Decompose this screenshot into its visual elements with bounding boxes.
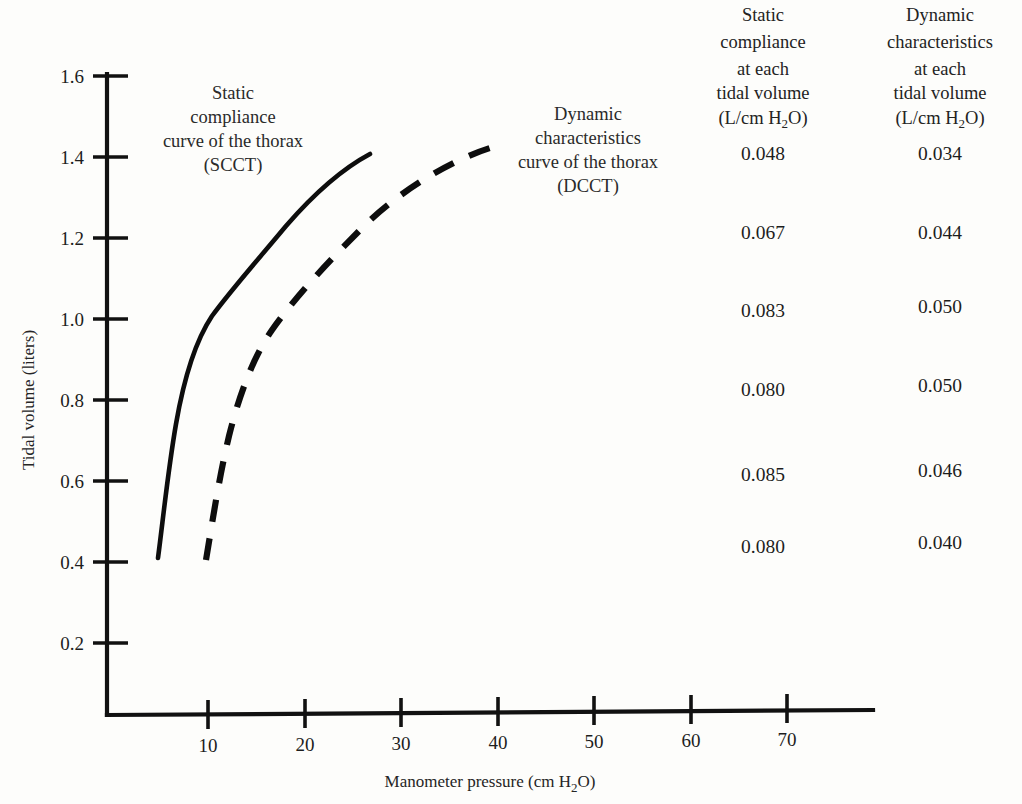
y-tick-label-0.2: 0.2 [60,633,84,654]
dcct-annotation-line-1: Dynamic [554,104,622,124]
dynamic-header-line-2: characteristics [887,32,993,52]
static-header-line-1: Static [742,5,784,25]
scct-annotation-line-3: curve of the thorax [163,131,304,151]
x-axis-tick-labels: 10 20 30 40 50 60 70 [199,729,797,756]
y-tick-label-0.6: 0.6 [60,471,84,492]
y-axis-tick-labels: 1.6 1.4 1.2 1.0 0.8 0.6 0.4 0.2 [60,66,84,654]
dynamic-header-unit-suffix: O) [965,108,985,129]
x-tick-label-50: 50 [585,731,604,752]
dcct-annotation-line-3: curve of the thorax [518,152,659,172]
x-axis-title-suffix: O) [578,772,596,791]
dynamic-value-row-2: 0.044 [918,222,962,243]
dynamic-value-row-6: 0.040 [918,532,962,553]
dynamic-header-line-3: at each [914,59,966,79]
static-value-row-2: 0.067 [741,222,785,243]
dynamic-header-line-1: Dynamic [906,5,974,25]
dynamic-header-line-4: tidal volume [894,83,987,103]
dcct-curve [206,148,490,560]
x-axis-title: Manometer pressure (cm H2O) [385,772,596,795]
y-tick-label-0.4: 0.4 [60,552,84,573]
static-header-unit-prefix: (L/cm H [718,108,781,129]
x-tick-label-10: 10 [199,735,218,756]
static-value-row-5: 0.085 [741,464,785,485]
x-tick-label-40: 40 [489,732,508,753]
dynamic-value-row-5: 0.046 [918,460,962,481]
scct-annotation-line-2: compliance [190,107,275,127]
dynamic-header-unit-prefix: (L/cm H [895,108,958,129]
y-axis-ticks [93,76,128,643]
static-header-line-2: compliance [720,32,805,52]
static-header-unit-suffix: O) [788,108,808,129]
y-tick-label-1.0: 1.0 [60,309,84,330]
scct-annotation: Static compliance curve of the thorax (S… [163,83,304,176]
x-tick-label-70: 70 [778,729,797,750]
static-value-row-4: 0.080 [741,379,785,400]
dynamic-value-row-1: 0.034 [918,143,962,164]
static-header-line-5: (L/cm H2O) [718,108,807,131]
x-axis-line [107,710,873,715]
dcct-annotation: Dynamic characteristics curve of the tho… [518,104,659,197]
static-value-row-3: 0.083 [741,300,785,321]
compliance-curve-figure: 1.6 1.4 1.2 1.0 0.8 0.6 0.4 0.2 Tidal vo… [0,0,1022,804]
y-tick-label-0.8: 0.8 [60,390,84,411]
y-tick-label-1.6: 1.6 [60,66,84,87]
scct-annotation-line-1: Static [212,83,254,103]
static-header-line-3: at each [737,59,789,79]
scct-annotation-line-4: (SCCT) [204,155,263,176]
y-tick-label-1.4: 1.4 [60,147,84,168]
x-tick-label-60: 60 [682,730,701,751]
dcct-annotation-line-2: characteristics [535,128,641,148]
y-axis-title: Tidal volume (liters) [19,330,38,470]
dynamic-header-line-5: (L/cm H2O) [895,108,984,131]
x-axis-title-prefix: Manometer pressure (cm H [385,772,571,791]
static-value-row-6: 0.080 [741,536,785,557]
dcct-annotation-line-4: (DCCT) [557,176,619,197]
y-tick-label-1.2: 1.2 [60,228,84,249]
dynamic-value-row-3: 0.050 [918,296,962,317]
x-tick-label-30: 30 [392,733,411,754]
static-header-line-4: tidal volume [717,83,810,103]
x-tick-label-20: 20 [296,734,315,755]
dynamic-characteristics-column: Dynamic characteristics at each tidal vo… [887,5,993,553]
static-value-row-1: 0.048 [741,143,785,164]
dynamic-value-row-4: 0.050 [918,375,962,396]
static-compliance-column: Static compliance at each tidal volume (… [717,5,810,557]
scct-curve [158,154,370,558]
